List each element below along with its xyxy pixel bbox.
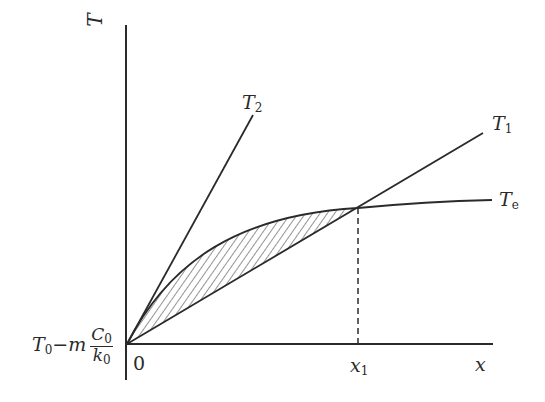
x-axis-label: x (475, 355, 486, 374)
intercept-fraction: C0k0 (90, 326, 113, 366)
fraction-numerator: C0 (90, 326, 113, 347)
numerator-text: C (91, 324, 104, 344)
t1-label-sub: 1 (505, 122, 513, 136)
y-axis-label-text: T (83, 13, 107, 26)
constitutional-supercooling-diagram: T T2 T1 Te T0−mC0k0 0 x1 x (0, 0, 545, 402)
te-label: Te (499, 190, 519, 211)
origin-label: 0 (133, 354, 145, 373)
te-label-main: T (499, 188, 512, 210)
x-axis-label-text: x (475, 353, 486, 375)
denominator-sub: 0 (103, 353, 111, 367)
t2-label-sub: 2 (255, 101, 263, 115)
t1-label: T1 (492, 114, 512, 135)
intercept-minus: − (52, 333, 68, 355)
x1-label-main: x (350, 354, 361, 376)
origin-label-text: 0 (133, 352, 145, 374)
t2-label: T2 (242, 93, 262, 114)
x1-label: x1 (350, 356, 368, 377)
denominator-text: k (93, 345, 103, 365)
te-label-sub: e (512, 198, 519, 212)
fraction-denominator: k0 (90, 347, 113, 367)
y-axis-label: T (85, 13, 105, 26)
intercept-coef: m (68, 333, 86, 355)
t2-label-main: T (242, 91, 255, 113)
intercept-label: T0−mC0k0 (32, 326, 113, 366)
numerator-sub: 0 (104, 332, 112, 346)
t1-line (127, 133, 483, 344)
x1-label-sub: 1 (361, 364, 369, 378)
t2-line (127, 115, 253, 344)
t1-label-main: T (492, 112, 505, 134)
intercept-prefix: T (32, 333, 45, 355)
